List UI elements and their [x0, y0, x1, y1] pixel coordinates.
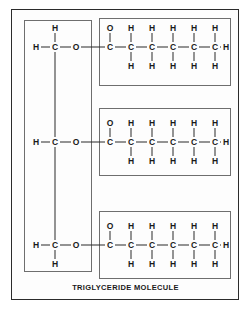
fatty-acid-chain-1-c5-bond-top: [194, 33, 195, 42]
fatty-acid-chain-2-carbon-3: C: [147, 138, 157, 147]
glycerol-c1-left-hydrogen: H: [31, 43, 41, 52]
fatty-acid-chain-3-c2-top-atom: H: [126, 222, 136, 231]
fatty-acid-chain-3-bond-c5-c6: [199, 245, 210, 246]
fatty-acid-chain-1-c3-top-atom: H: [147, 24, 157, 33]
fatty-acid-chain-1-terminal-hydrogen: H: [221, 43, 231, 52]
fatty-acid-chain-3-c6-bond-bottom: [215, 250, 216, 259]
fatty-acid-chain-2-bond-terminal: [220, 142, 221, 143]
fatty-acid-chain-3-bond-terminal: [220, 245, 221, 246]
fatty-acid-chain-1-carbon-4: C: [168, 43, 178, 52]
fatty-acid-chain-2-c3-bond-top: [152, 128, 153, 137]
fatty-acid-chain-3-c2-bond-bottom: [131, 250, 132, 259]
fatty-acid-chain-1-c6-top-atom: H: [210, 24, 220, 33]
fatty-acid-chain-1-c5-bond-bottom: [194, 52, 195, 61]
fatty-acid-chain-2-c4-bottom-hydrogen: H: [168, 157, 178, 166]
fatty-acid-chain-3-carbon-6: C: [210, 241, 220, 250]
fatty-acid-chain-2-c3-top-atom: H: [147, 119, 157, 128]
fatty-acid-chain-3-c4-bond-top: [173, 231, 174, 240]
fatty-acid-chain-2-c6-bond-bottom: [215, 147, 216, 156]
fatty-acid-chain-1-c1-bond-top: [110, 33, 111, 42]
fatty-acid-chain-2-c5-bottom-hydrogen: H: [189, 157, 199, 166]
glycerol-c2-left-hydrogen: H: [31, 138, 41, 147]
fatty-acid-chain-1-c2-top-atom: H: [126, 24, 136, 33]
fatty-acid-chain-1-c6-bond-bottom: [215, 52, 216, 61]
fatty-acid-chain-1-carbon-2: C: [126, 43, 136, 52]
fatty-acid-chain-2-c2-bottom-hydrogen: H: [126, 157, 136, 166]
fatty-acid-chain-1-c6-bottom-hydrogen: H: [210, 62, 220, 71]
fatty-acid-chain-3-c4-top-atom: H: [168, 222, 178, 231]
glycerol-c2-bond-h-c: [41, 142, 50, 143]
fatty-acid-chain-3-c1-bond-top: [110, 231, 111, 240]
fatty-acid-chain-3-c5-bond-top: [194, 231, 195, 240]
fatty-acid-chain-3-c4-bottom-hydrogen: H: [168, 260, 178, 269]
fatty-acid-chain-3-c3-bond-top: [152, 231, 153, 240]
fatty-acid-chain-1-c5-top-atom: H: [189, 24, 199, 33]
fatty-acid-chain-2-bond-c5-c6: [199, 142, 210, 143]
glycerol-c3-bond-h-c: [41, 245, 50, 246]
fatty-acid-chain-3-c3-bond-bottom: [152, 250, 153, 259]
fatty-acid-chain-3-c5-bond-bottom: [194, 250, 195, 259]
glycerol-c3-bond-bottom: [55, 250, 56, 259]
glycerol-c1-oxygen: O: [71, 43, 81, 52]
figure-canvas: HCOHHCOHCOHCOCHHCHHCHHCHHCHHHCOCHHCHHCHH…: [0, 0, 251, 314]
glycerol-c2-carbon: C: [50, 138, 60, 147]
ester-link-2: [81, 142, 105, 143]
fatty-acid-chain-1-carbon-1: C: [105, 43, 115, 52]
fatty-acid-chain-3-c3-bottom-hydrogen: H: [147, 260, 157, 269]
fatty-acid-chain-2-bond-c1-c2: [115, 142, 126, 143]
fatty-acid-chain-1-c4-top-atom: H: [168, 24, 178, 33]
fatty-acid-chain-3-carbon-1: C: [105, 241, 115, 250]
fatty-acid-chain-2-c6-bottom-hydrogen: H: [210, 157, 220, 166]
fatty-acid-chain-2-c4-bond-top: [173, 128, 174, 137]
ester-link-3: [81, 245, 105, 246]
fatty-acid-chain-1-c5-bottom-hydrogen: H: [189, 62, 199, 71]
fatty-acid-chain-2-c1-top-atom: O: [105, 119, 115, 128]
fatty-acid-chain-3-c3-top-atom: H: [147, 222, 157, 231]
fatty-acid-chain-2-carbon-4: C: [168, 138, 178, 147]
fatty-acid-chain-2-c6-top-atom: H: [210, 119, 220, 128]
fatty-acid-chain-1-c3-bond-bottom: [152, 52, 153, 61]
fatty-acid-chain-3-c5-bottom-hydrogen: H: [189, 260, 199, 269]
figure-caption: TRIGLYCERIDE MOLECULE: [0, 283, 251, 292]
fatty-acid-chain-3-c1-top-atom: O: [105, 222, 115, 231]
glycerol-c1-bond-h-c: [41, 47, 50, 48]
fatty-acid-chain-3-bond-c2-c3: [136, 245, 147, 246]
fatty-acid-chain-3-c5-top-atom: H: [189, 222, 199, 231]
fatty-acid-chain-1-c3-bottom-hydrogen: H: [147, 62, 157, 71]
fatty-acid-chain-1-c6-bond-top: [215, 33, 216, 42]
fatty-acid-chain-2-carbon-1: C: [105, 138, 115, 147]
fatty-acid-chain-2-c3-bottom-hydrogen: H: [147, 157, 157, 166]
fatty-acid-chain-2-carbon-6: C: [210, 138, 220, 147]
fatty-acid-chain-2-terminal-hydrogen: H: [221, 138, 231, 147]
fatty-acid-chain-1-c3-bond-top: [152, 33, 153, 42]
fatty-acid-chain-3-c6-bond-top: [215, 231, 216, 240]
glycerol-c2-oxygen: O: [71, 138, 81, 147]
fatty-acid-chain-1-bond-c2-c3: [136, 47, 147, 48]
fatty-acid-chain-3-c6-bottom-hydrogen: H: [210, 260, 220, 269]
fatty-acid-chain-2-carbon-5: C: [189, 138, 199, 147]
fatty-acid-chain-3-c4-bond-bottom: [173, 250, 174, 259]
fatty-acid-chain-3-bond-c4-c5: [178, 245, 189, 246]
fatty-acid-chain-1-c4-bond-bottom: [173, 52, 174, 61]
fatty-acid-chain-2-c2-bond-bottom: [131, 147, 132, 156]
glycerol-c1-top-hydrogen: H: [50, 24, 60, 33]
fatty-acid-chain-2-bond-c3-c4: [157, 142, 168, 143]
fatty-acid-chain-1-bond-terminal: [220, 47, 221, 48]
glycerol-c1-bond-top: [55, 33, 56, 42]
fatty-acid-chain-3-bond-c1-c2: [115, 245, 126, 246]
fatty-acid-chain-2-c5-bond-bottom: [194, 147, 195, 156]
fatty-acid-chain-2-c2-bond-top: [131, 128, 132, 137]
fatty-acid-chain-2-c2-top-atom: H: [126, 119, 136, 128]
fatty-acid-chain-2-carbon-2: C: [126, 138, 136, 147]
glycerol-c3-bottom-hydrogen: H: [50, 260, 60, 269]
fatty-acid-chain-2-bond-c2-c3: [136, 142, 147, 143]
fatty-acid-chain-2-c3-bond-bottom: [152, 147, 153, 156]
ester-link-1: [81, 47, 105, 48]
glycerol-c3-oxygen: O: [71, 241, 81, 250]
glycerol-c3-left-hydrogen: H: [31, 241, 41, 250]
glycerol-c3-bond-c-o: [60, 245, 71, 246]
fatty-acid-chain-2-c5-top-atom: H: [189, 119, 199, 128]
fatty-acid-chain-1-c2-bottom-hydrogen: H: [126, 62, 136, 71]
fatty-acid-chain-2-c6-bond-top: [215, 128, 216, 137]
glycerol-spine-c1-c2: [55, 52, 56, 137]
